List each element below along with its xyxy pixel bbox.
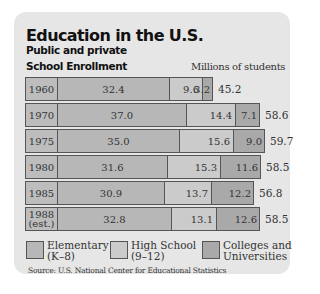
bar-segment-colleges: 3.2 <box>202 77 213 101</box>
table-row: 197535.015.69.059.7 <box>25 129 293 153</box>
row-total: 58.5 <box>261 155 289 179</box>
table-row: 197037.014.47.158.6 <box>25 103 288 127</box>
bar-segment-colleges: 11.6 <box>220 155 261 179</box>
legend-swatch-high-school <box>110 241 128 259</box>
row-total: 45.2 <box>213 77 241 101</box>
bar-segment-colleges: 12.6 <box>216 207 260 231</box>
legend-elementary: Elementary(K–8) <box>26 240 109 262</box>
legend-swatch-colleges <box>202 241 220 259</box>
table-row: 198031.615.311.658.5 <box>25 155 289 179</box>
year-label: 1980 <box>25 155 58 179</box>
bar-segment-colleges: 7.1 <box>235 103 260 127</box>
row-total: 58.5 <box>260 207 288 231</box>
row-total: 56.8 <box>254 181 282 205</box>
bar-segment-elementary: 37.0 <box>57 103 187 127</box>
section-label: School Enrollment <box>26 60 127 72</box>
bar-segment-elementary: 35.0 <box>57 129 180 153</box>
table-row: 196032.49.63.245.2 <box>25 77 241 101</box>
year-label: 1985 <box>25 181 58 205</box>
bar-segment-elementary: 32.4 <box>57 77 170 101</box>
legend-sublabel: Universities <box>223 251 292 262</box>
year-label: 1960 <box>25 77 58 101</box>
legend-colleges: Colleges andUniversities <box>202 240 292 262</box>
bar-segment-high-school: 14.4 <box>186 103 236 127</box>
chart-subtitle: Public and private <box>26 44 127 56</box>
year-label: 1988(est.) <box>25 207 58 231</box>
bar-segment-high-school: 15.3 <box>167 155 221 179</box>
legend-sublabel: (K–8) <box>47 251 109 262</box>
row-total: 59.7 <box>265 129 293 153</box>
bar-segment-colleges: 9.0 <box>233 129 265 153</box>
bar-segment-high-school: 15.6 <box>179 129 234 153</box>
bar-segment-high-school: 13.7 <box>164 181 212 205</box>
bar-segment-colleges: 12.2 <box>211 181 254 205</box>
bar-segment-high-school: 13.1 <box>171 207 217 231</box>
bar-segment-elementary: 31.6 <box>57 155 168 179</box>
bar-segment-elementary: 30.9 <box>57 181 165 205</box>
legend-swatch-elementary <box>26 241 44 259</box>
source-note: Source: U.S. National Center for Educati… <box>28 266 226 275</box>
row-total: 58.6 <box>260 103 288 127</box>
legend-high-school: High School(9–12) <box>110 240 196 262</box>
legend-sublabel: (9–12) <box>131 251 196 262</box>
bar-segment-elementary: 32.8 <box>57 207 172 231</box>
table-row: 1988(est.)32.813.112.658.5 <box>25 207 288 231</box>
chart-title: Education in the U.S. <box>26 26 203 45</box>
units-label: Millions of students <box>191 61 285 72</box>
year-label: 1970 <box>25 103 58 127</box>
year-note: (est.) <box>28 219 54 228</box>
table-row: 198530.913.712.256.8 <box>25 181 282 205</box>
year-label: 1975 <box>25 129 58 153</box>
